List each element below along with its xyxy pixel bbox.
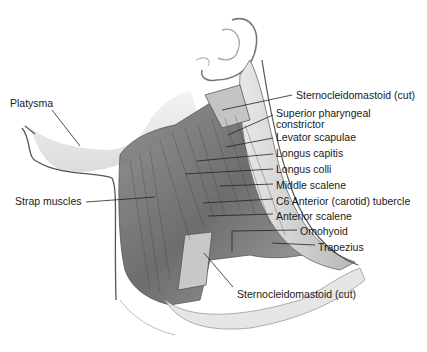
label-omohyoid: Omohyoid <box>300 226 348 237</box>
label-platysma: Platysma <box>10 98 53 109</box>
label-sternocleidomastoid-cut-bottom: Sternocleidomastoid (cut) <box>237 289 356 300</box>
label-anterior-scalene: Anterior scalene <box>276 211 352 222</box>
label-trapezius: Trapezius <box>318 242 364 253</box>
label-sternocleidomastoid-cut-top: Sternocleidomastoid (cut) <box>296 90 415 101</box>
anatomy-diagram: Platysma Strap muscles Sternocleidomasto… <box>0 0 427 352</box>
label-strap-muscles: Strap muscles <box>15 196 82 207</box>
label-longus-colli: Longus colli <box>276 164 331 175</box>
label-constrictor: constrictor <box>276 119 324 130</box>
neck-illustration <box>0 0 427 352</box>
label-levator-scapulae: Levator scapulae <box>276 132 356 143</box>
label-longus-capitis: Longus capitis <box>276 148 343 159</box>
label-c6-tubercle: C6 Anterior (carotid) tubercle <box>276 196 410 207</box>
label-middle-scalene: Middle scalene <box>276 180 346 191</box>
